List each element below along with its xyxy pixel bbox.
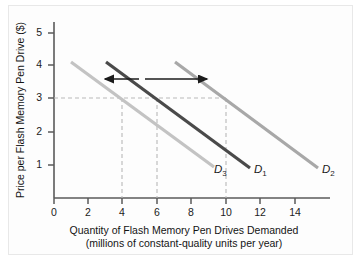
curve-label-d2-subscript: 2 [330,169,334,178]
x-tick-label-8: 8 [181,206,201,218]
y-axis-title: Price per Flash Memory Pen Drive ($) [14,15,26,205]
demand-curve-d3 [71,62,214,167]
x-tick-label-12: 12 [250,206,270,218]
demand-curve-d1 [106,62,250,168]
y-tick-label-4: 4 [26,58,42,70]
x-tick-label-14: 14 [285,206,305,218]
curve-label-d3: D3 [214,163,227,178]
x-tick-label-10: 10 [216,206,236,218]
x-axis-title-line-1: Quantity of Flash Memory Pen Drives Dema… [34,224,334,236]
y-tick-label-3: 3 [26,91,42,103]
x-tick-label-2: 2 [78,206,98,218]
y-tick-label-2: 2 [26,125,42,137]
x-tick-label-0: 0 [44,206,64,218]
x-tick-label-4: 4 [112,206,132,218]
x-tick-label-6: 6 [147,206,167,218]
demand-shift-chart-figure: 5 4 3 2 1 0 2 4 6 8 10 12 14 Price per F… [0,0,361,265]
curve-label-d3-subscript: 3 [222,169,226,178]
curve-label-d2: D2 [322,163,335,178]
y-tick-label-1: 1 [26,158,42,170]
x-axis-title-line-2: (millions of constant-quality units per … [34,237,334,249]
curve-label-d1-subscript: 1 [262,169,266,178]
y-tick-label-5: 5 [26,26,42,38]
demand-curve-d2 [175,62,318,168]
curve-label-d1: D1 [254,163,267,178]
